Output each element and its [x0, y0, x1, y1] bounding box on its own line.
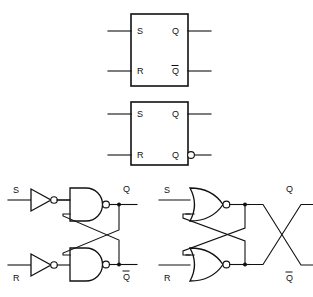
nand-bottom-inverter-bubble-icon: [51, 262, 58, 269]
block1-label-s: S: [137, 26, 143, 36]
block1-label-r: R: [137, 66, 144, 76]
nand-top-inverter-bubble-icon: [51, 197, 58, 204]
block2-output-inversion-bubble-icon: [188, 152, 195, 159]
nor-latch-circuit: S R Q Q: [159, 184, 313, 283]
nand-output-label-q: Q: [123, 184, 130, 194]
block-symbol-bubble: S R Q Q: [108, 102, 211, 165]
block1-label-q: Q: [172, 26, 179, 36]
nand-bottom-gate-bubble-icon: [103, 261, 110, 268]
nand-top-gate-bubble-icon: [103, 201, 110, 208]
logic-diagram: S R Q Q S R Q Q S: [0, 0, 313, 297]
nand-bottom-inverter-body: [31, 254, 51, 276]
nand-top-inverter-body: [31, 189, 51, 211]
nor-output-label-qbar: Q: [286, 273, 293, 283]
nand-bottom-gate-body: [70, 248, 103, 281]
block-symbol-plain: S R Q Q: [108, 14, 211, 86]
nor-bottom-gate-bubble-icon: [223, 261, 230, 268]
nand-input-label-r: R: [13, 273, 20, 283]
nand-top-gate-body: [70, 188, 103, 221]
nor-output-label-q: Q: [286, 184, 293, 194]
block2-label-r: R: [137, 150, 144, 160]
figure-canvas: S R Q Q S R Q Q S: [0, 0, 313, 297]
nor-output-cross-line-lower: [250, 205, 313, 265]
nand-output-label-qbar: Q: [123, 272, 130, 282]
block1-label-qbar: Q: [172, 66, 179, 76]
nor-input-label-r: R: [164, 273, 171, 283]
nor-top-gate-bubble-icon: [223, 201, 230, 208]
nor-top-gate-body: [190, 188, 223, 221]
block2-label-qbar: Q: [172, 150, 179, 160]
block2-label-q: Q: [172, 109, 179, 119]
nor-input-label-s: S: [164, 185, 170, 195]
nand-latch-circuit: S Q R Q: [8, 184, 137, 283]
nand-input-label-s: S: [13, 185, 19, 195]
nor-bottom-gate-body: [190, 248, 223, 281]
block2-label-s: S: [137, 109, 143, 119]
